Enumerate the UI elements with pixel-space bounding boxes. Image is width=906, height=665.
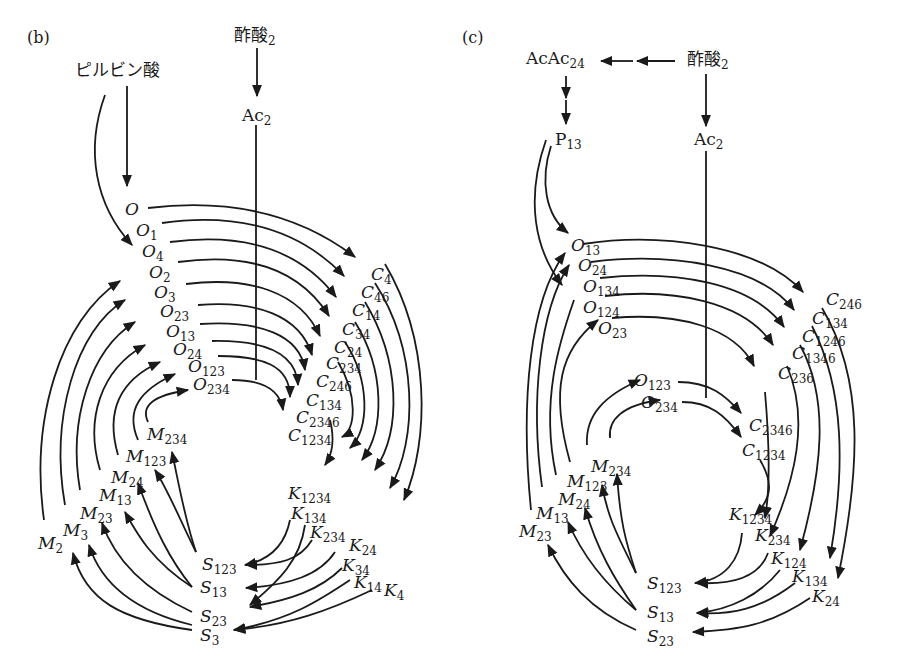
panel-c-label: (c)	[462, 30, 483, 46]
acetate-label: 酢酸2	[234, 27, 276, 44]
node-O13: O13	[571, 237, 600, 254]
p-label: P13	[555, 131, 582, 148]
node-K24: K24	[349, 537, 377, 554]
node-C134: C134	[306, 392, 342, 409]
node-O24: O24	[578, 257, 607, 274]
node-C1234: C1234	[288, 427, 332, 444]
node-C246: C246	[316, 373, 352, 390]
node-O2: O2	[149, 264, 171, 281]
node-C46: C46	[361, 284, 389, 301]
node-C236: C236	[778, 365, 814, 382]
pyruvate-label: ピルビン酸	[75, 62, 160, 79]
node-S23: S23	[647, 628, 674, 645]
node-O23: O23	[598, 320, 627, 337]
node-O4: O4	[142, 243, 164, 260]
metabolic-label-flow-diagram: (b) ピルビン酸 酢酸2 Ac2 O O1 O4 O2 O3 O23 O13 …	[0, 0, 906, 665]
node-K124: K124	[771, 550, 807, 567]
node-K134: K134	[792, 568, 828, 585]
node-O3: O3	[154, 284, 176, 301]
node-M3: M3	[63, 522, 88, 539]
node-C134: C134	[812, 310, 848, 327]
node-O23: O23	[160, 303, 189, 320]
node-M13: M13	[99, 487, 132, 504]
node-M234: M234	[147, 426, 187, 443]
node-O1: O1	[136, 222, 158, 239]
node-K134: K134	[291, 505, 327, 522]
node-O234: O234	[641, 394, 678, 411]
node-O124: O124	[583, 299, 620, 316]
acetate-label: 酢酸2	[687, 51, 729, 68]
node-S123: S123	[647, 575, 682, 592]
node-C2346: C2346	[296, 409, 340, 426]
node-O134: O134	[583, 278, 620, 295]
node-S13: S13	[200, 579, 227, 596]
node-M23: M23	[519, 523, 552, 540]
node-K1234: K1234	[729, 506, 772, 523]
node-O123: O123	[634, 372, 671, 389]
node-O13: O13	[166, 323, 195, 340]
node-C1346: C1346	[792, 345, 836, 362]
node-O123: O123	[188, 358, 225, 375]
node-K14: K14	[354, 574, 382, 591]
node-C14: C14	[352, 302, 380, 319]
node-M23: M23	[80, 505, 113, 522]
node-M24: M24	[111, 469, 144, 486]
node-M123: M123	[567, 473, 607, 490]
node-C234: C234	[326, 355, 362, 372]
node-K24: K24	[812, 588, 840, 605]
node-C246: C246	[826, 291, 862, 308]
node-S23: S23	[200, 608, 227, 625]
node-C34: C34	[342, 321, 370, 338]
acetyl-label: Ac2	[694, 131, 723, 148]
node-K234: K234	[310, 524, 346, 541]
node-K4: K4	[384, 582, 404, 599]
node-C2346: C2346	[749, 417, 793, 434]
node-O234: O234	[193, 376, 230, 393]
node-M13: M13	[536, 505, 569, 522]
acetoacetate-label: AcAc24	[526, 50, 585, 67]
node-C1246: C1246	[802, 328, 846, 345]
acetyl-label: Ac2	[242, 107, 271, 124]
node-M123: M123	[126, 448, 166, 465]
node-K234: K234	[755, 527, 791, 544]
node-M2: M2	[38, 535, 63, 552]
node-S3: S3	[200, 627, 219, 644]
node-S13: S13	[647, 604, 674, 621]
node-C4: C4	[371, 266, 392, 283]
panel-b-label: (b)	[27, 30, 50, 46]
node-K1234: K1234	[288, 485, 331, 502]
node-O: O	[125, 201, 139, 218]
node-C1234: C1234	[742, 442, 786, 459]
node-S123: S123	[202, 556, 237, 573]
